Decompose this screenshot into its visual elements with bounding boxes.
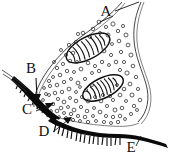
label-E: E [126,139,135,155]
figure-background [0,0,174,160]
label-D: D [39,123,50,139]
synapse-diagram-figure: A B C D E [0,0,174,160]
diagram-canvas: A B C D E [0,0,174,160]
label-B: B [26,60,36,76]
label-A: A [101,3,112,19]
label-C: C [22,101,32,117]
